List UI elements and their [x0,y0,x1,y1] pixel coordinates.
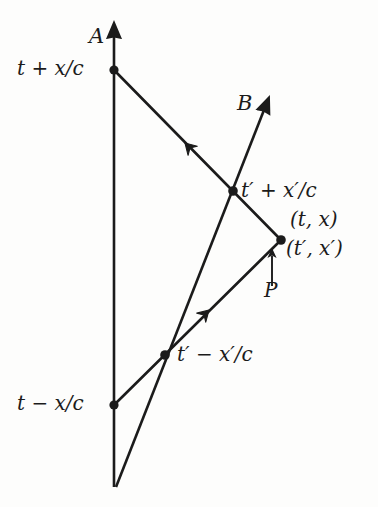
axis-label-b: B [237,93,252,114]
label-coords-primed: (t′, x′) [286,238,343,258]
event-dot-tp-plus-xp-over-c [228,186,238,196]
minkowski-diagram: A B t + x/c t − x/c t′ + x′/c t′ − x′/c … [0,0,378,507]
event-dot-tp-minus-xp-over-c [160,350,170,360]
label-tp-minus-xp-over-c: t′ − x′/c [177,344,253,364]
label-point-p: P [264,280,277,300]
label-tp-plus-xp-over-c: t′ + x′/c [241,180,317,200]
null-ray-outgoing [114,240,281,405]
label-t-minus-x-over-c: t − x/c [17,393,84,413]
label-t-plus-x-over-c: t + x/c [17,58,84,78]
event-dot-p [276,235,286,245]
axis-label-a: A [89,26,104,47]
label-coords-unprimed: (t, x) [290,209,338,229]
event-dot-t-minus-x-over-c [109,400,118,409]
worldline-b-line [116,110,264,487]
null-ray-returning [114,70,281,240]
event-dot-t-plus-x-over-c [109,65,118,74]
